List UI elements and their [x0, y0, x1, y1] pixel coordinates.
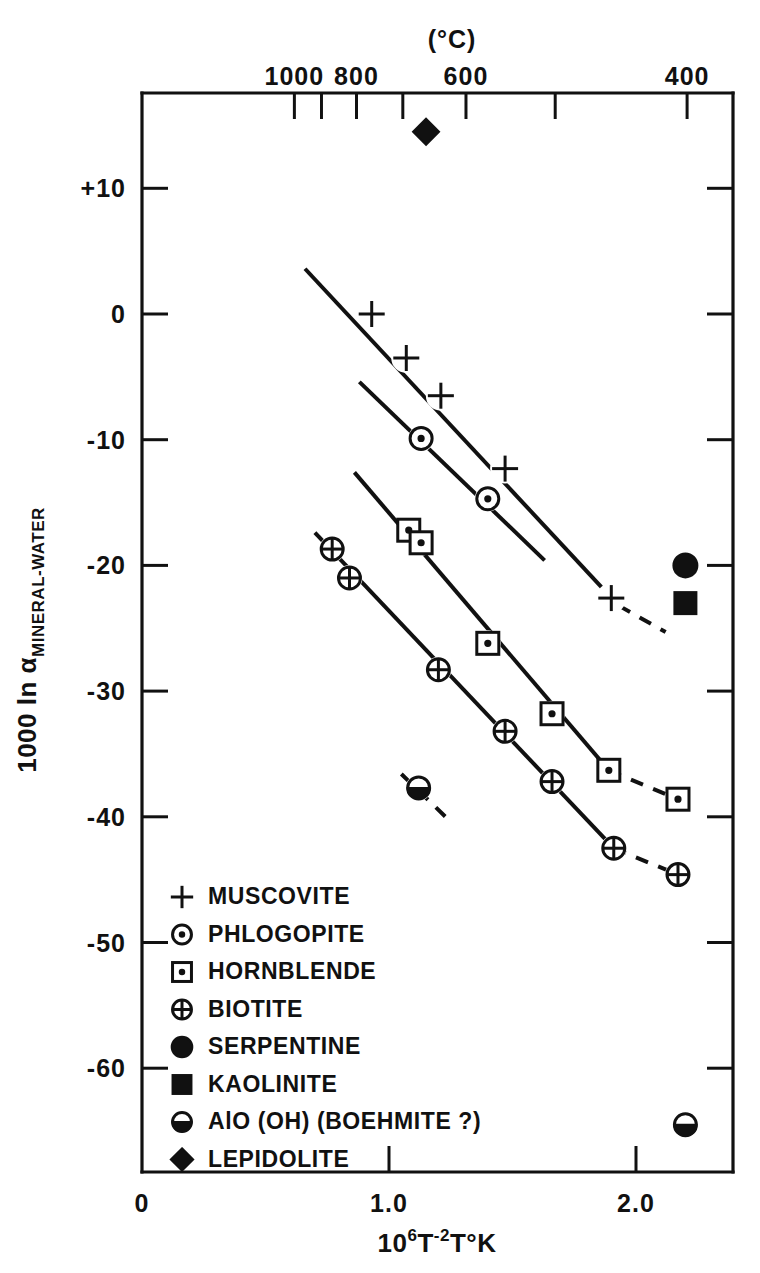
legend-item[interactable]: LEPIDOLITE	[171, 1146, 350, 1172]
top-axis-tick-labels: 1000800600400	[265, 62, 710, 90]
legend-item[interactable]: HORNBLENDE	[173, 958, 377, 984]
data-marker-dot-circle	[173, 925, 192, 944]
top-axis-title: (°C)	[428, 25, 477, 53]
top-axis-ticks	[294, 93, 687, 119]
data-marker-cross-circle	[321, 538, 343, 560]
x-axis-tick-label: 0	[135, 1189, 150, 1217]
legend-item-label: SERPENTINE	[208, 1033, 361, 1059]
y-axis-tick-label: -50	[87, 929, 126, 957]
data-marker-half-circle	[408, 777, 430, 799]
data-marker-filled-square	[173, 1075, 192, 1094]
chart-legend: MUSCOVITEPHLOGOPITEHORNBLENDEBIOTITESERP…	[171, 883, 481, 1172]
legend-item-label: MUSCOVITE	[208, 883, 350, 909]
legend-item-label: BIOTITE	[208, 996, 303, 1022]
legend-item-label: HORNBLENDE	[208, 958, 376, 984]
data-marker-filled-square	[674, 592, 696, 614]
x-axis-tick-labels: 01.02.0	[135, 1189, 655, 1217]
legend-item[interactable]: AlO (OH) (BOEHMITE ?)	[173, 1108, 482, 1134]
data-marker-dot-square	[598, 759, 620, 781]
data-marker-dot-square	[173, 963, 192, 982]
data-marker-cross-circle	[427, 659, 449, 681]
right-axis-ticks	[707, 188, 733, 1068]
y-axis-tick-label: 0	[111, 300, 126, 328]
series-line-solid	[305, 269, 619, 606]
data-marker-dot-square	[410, 532, 432, 554]
legend-item-label: PHLOGOPITE	[208, 921, 365, 947]
top-axis-tick-label: 1000	[265, 62, 325, 90]
data-marker-cross-circle	[173, 1000, 192, 1019]
x-axis-title-t: T	[417, 1228, 433, 1258]
data-marker-cross-circle	[603, 837, 625, 859]
x-axis-title: 106T-2T°K	[378, 1226, 497, 1258]
y-axis-tick-label: -20	[87, 551, 126, 579]
legend-item-label: AlO (OH) (BOEHMITE ?)	[208, 1108, 481, 1134]
y-axis-tick-label: -60	[87, 1054, 126, 1082]
legend-item-label: KAOLINITE	[208, 1071, 337, 1097]
data-marker-filled-diamond	[171, 1148, 193, 1170]
bottom-axis-ticks	[389, 1146, 636, 1172]
x-axis-title-exp1: 6	[407, 1226, 417, 1245]
legend-item[interactable]: SERPENTINE	[172, 1033, 361, 1059]
legend-item[interactable]: BIOTITE	[173, 996, 303, 1022]
series-line-dashed	[619, 606, 666, 632]
svg-text:1000 ln αMINERAL-WATER: 1000 ln αMINERAL-WATER	[12, 507, 48, 773]
data-marker-dot-square	[477, 632, 499, 654]
left-axis-ticks	[142, 188, 168, 1068]
x-axis-title-tail: T°K	[450, 1228, 497, 1258]
data-marker-cross-circle	[494, 720, 516, 742]
legend-item[interactable]: KAOLINITE	[173, 1071, 338, 1097]
legend-item[interactable]: PHLOGOPITE	[173, 921, 365, 947]
y-axis-tick-label: -40	[87, 803, 126, 831]
top-axis-tick-label: 600	[444, 62, 489, 90]
figure-container: (°C) 1000800600400 +100-10-20-30-40-50-6…	[0, 0, 760, 1273]
data-marker-dot-circle	[410, 427, 432, 449]
data-marker-cross-circle	[667, 864, 689, 886]
data-marker-filled-circle	[673, 553, 697, 577]
data-marker-dot-circle	[477, 488, 499, 510]
y-axis-tick-label: +10	[81, 174, 126, 202]
legend-item[interactable]: MUSCOVITE	[171, 883, 350, 909]
y-axis-title: 1000 ln αMINERAL-WATER	[12, 507, 48, 773]
top-axis-tick-label: 400	[665, 62, 710, 90]
y-axis-tick-labels: +100-10-20-30-40-50-60	[81, 174, 126, 1082]
data-marker-half-circle	[173, 1113, 192, 1132]
y-axis-title-main: 1000 ln α	[12, 657, 42, 773]
x-axis-title-exp2: -2	[434, 1226, 450, 1245]
data-marker-filled-circle	[172, 1037, 193, 1058]
x-axis-tick-label: 1.0	[370, 1189, 408, 1217]
top-axis-tick-label: 800	[334, 62, 379, 90]
x-axis-tick-label: 2.0	[617, 1189, 655, 1217]
data-marker-half-circle	[674, 1114, 696, 1136]
series-markers	[319, 117, 700, 1138]
chart-svg: (°C) 1000800600400 +100-10-20-30-40-50-6…	[0, 0, 760, 1273]
y-axis-title-sub: MINERAL-WATER	[29, 507, 48, 657]
svg-text:106T-2T°K: 106T-2T°K	[378, 1226, 497, 1258]
x-axis-title-base: 10	[378, 1228, 408, 1258]
legend-item-label: LEPIDOLITE	[208, 1146, 349, 1172]
data-marker-cross-circle	[338, 567, 360, 589]
y-axis-tick-label: -30	[87, 677, 126, 705]
series-line-solid	[354, 472, 608, 770]
y-axis-tick-label: -10	[87, 426, 126, 454]
data-marker-dot-square	[667, 788, 689, 810]
series-lines	[305, 269, 678, 875]
data-marker-cross-circle	[541, 771, 563, 793]
data-marker-plus	[171, 886, 193, 908]
data-marker-dot-square	[541, 703, 563, 725]
